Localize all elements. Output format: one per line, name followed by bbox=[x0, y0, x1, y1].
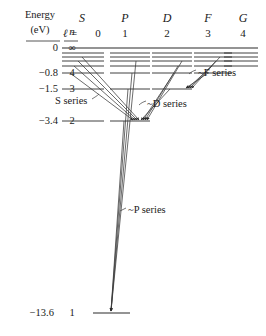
ell-value-P: 1 bbox=[105, 28, 145, 39]
series-label-d: ~D series bbox=[147, 99, 187, 110]
column-header-F: F bbox=[188, 12, 228, 24]
energy-level-diagram-figure: Energy (eV) n S P D F G ℓ = 0 1 2 3 4 0 … bbox=[0, 0, 266, 336]
transitions-d-series bbox=[141, 61, 182, 120]
n-value-4: 4 bbox=[64, 68, 80, 79]
series-label-p: ~P series bbox=[128, 205, 166, 216]
column-header-P: P bbox=[105, 12, 145, 24]
energy-value-n2: −3.4 bbox=[18, 116, 58, 127]
series-leader-lines bbox=[92, 70, 196, 211]
ell-value-D: 2 bbox=[147, 28, 187, 39]
n-value-2: 2 bbox=[64, 116, 80, 127]
energy-value-n4: −0.8 bbox=[18, 68, 58, 79]
energy-axis-title-line1: Energy bbox=[16, 10, 64, 21]
energy-axis-title-line2: (eV) bbox=[16, 25, 64, 36]
ell-value-G: 4 bbox=[223, 28, 263, 39]
n-value-infinity: ∞ bbox=[64, 43, 80, 53]
energy-value-n3: −1.5 bbox=[18, 84, 58, 95]
energy-value-n1: −13.6 bbox=[14, 308, 54, 319]
transitions-p-series bbox=[111, 61, 136, 311]
levels-column-G bbox=[224, 53, 258, 66]
ell-prefix-label: ℓ = bbox=[63, 28, 78, 39]
n-value-3: 3 bbox=[64, 84, 80, 95]
series-label-f: ~F series bbox=[198, 68, 236, 79]
series-label-s: S series bbox=[55, 96, 87, 107]
column-header-D: D bbox=[147, 12, 187, 24]
n-value-1: 1 bbox=[64, 308, 80, 319]
levels-column-P bbox=[110, 53, 150, 121]
column-header-S: S bbox=[62, 12, 102, 24]
column-header-G: G bbox=[223, 12, 263, 24]
levels-column-D bbox=[152, 53, 192, 89]
energy-value-0: 0 bbox=[18, 43, 58, 54]
ell-value-F: 3 bbox=[188, 28, 228, 39]
